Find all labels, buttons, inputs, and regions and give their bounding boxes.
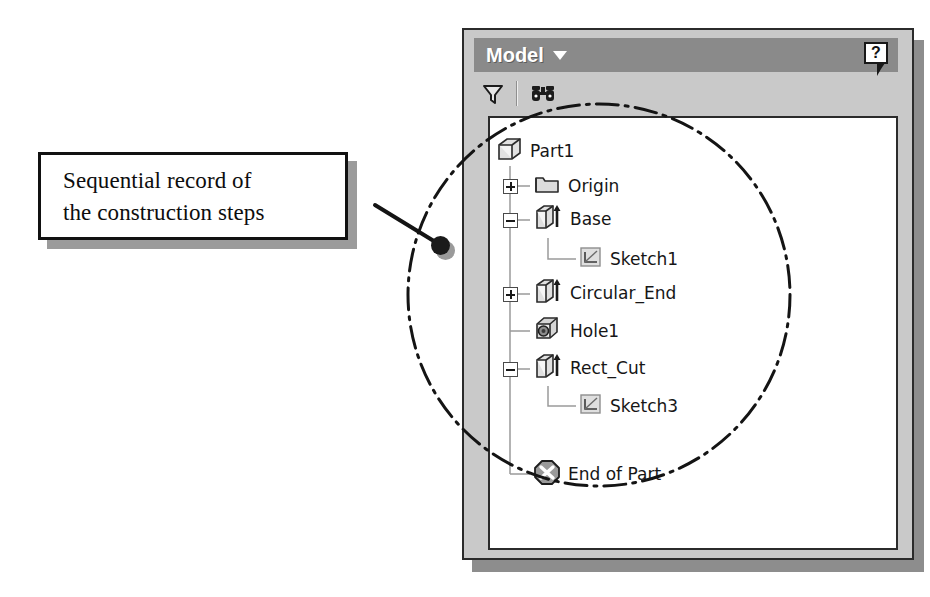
tree-expander-circular-end[interactable] [503, 287, 518, 302]
help-button[interactable]: ? [864, 42, 890, 68]
sketch-icon [576, 244, 604, 274]
tree-node-label: Base [570, 209, 611, 229]
callout-text: Sequential record of the construction st… [63, 165, 343, 229]
sketch-icon [576, 391, 604, 421]
hole-cube-icon [532, 315, 564, 347]
model-browser-panel: Model ? [462, 28, 914, 560]
tree-node-label: End of Part [568, 464, 661, 484]
model-tree: Part1 Origin [490, 118, 896, 548]
tree-node-circular-end[interactable]: Circular_End [532, 280, 676, 306]
annotation-callout-box: Sequential record of the construction st… [38, 152, 348, 240]
tree-node-hole1[interactable]: Hole1 [532, 318, 619, 344]
tree-node-label: Hole1 [570, 321, 619, 341]
tree-node-label: Sketch1 [610, 249, 678, 269]
extrude-icon [532, 351, 564, 385]
binoculars-search-icon[interactable] [528, 80, 558, 108]
callout-line-1: Sequential record of [63, 165, 343, 197]
tree-expander-origin[interactable] [503, 179, 518, 194]
tree-node-label: Circular_End [570, 283, 676, 303]
tree-node-rect-cut[interactable]: Rect_Cut [532, 355, 645, 381]
part-cube-icon [494, 135, 524, 167]
model-tree-panel[interactable]: Part1 Origin [488, 116, 898, 550]
help-balloon-icon: ? [864, 42, 888, 64]
tree-node-base[interactable]: Base [532, 206, 611, 232]
tree-node-sketch3[interactable]: Sketch3 [576, 393, 678, 419]
tree-node-origin[interactable]: Origin [532, 173, 619, 199]
tree-expander-rect-cut[interactable] [503, 362, 518, 377]
extrude-icon [532, 202, 564, 236]
screenshot-stage: Sequential record of the construction st… [0, 0, 930, 597]
panel-titlebar: Model ? [474, 38, 898, 72]
end-of-part-icon [532, 458, 562, 490]
extrude-icon [532, 276, 564, 310]
filter-funnel-icon[interactable] [478, 80, 508, 108]
panel-toolbar [474, 78, 898, 110]
tree-node-label: Origin [568, 176, 619, 196]
folder-icon [532, 171, 562, 201]
tree-node-label: Sketch3 [610, 396, 678, 416]
tree-expander-base[interactable] [503, 213, 518, 228]
tree-node-label: Part1 [530, 141, 574, 161]
tree-node-part1[interactable]: Part1 [494, 138, 574, 164]
help-balloon-tail-icon [877, 63, 885, 76]
leader-dot [431, 236, 450, 255]
chevron-down-icon[interactable] [553, 51, 567, 60]
tree-node-sketch1[interactable]: Sketch1 [576, 246, 678, 272]
panel-title: Model [486, 44, 544, 67]
callout-line-2: the construction steps [63, 197, 343, 229]
tree-node-end-of-part[interactable]: End of Part [532, 461, 661, 487]
tree-node-label: Rect_Cut [570, 358, 645, 378]
toolbar-separator [516, 81, 518, 106]
